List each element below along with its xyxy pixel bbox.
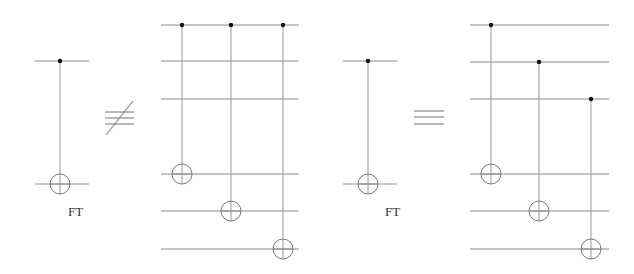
cnot-gate (481, 23, 501, 184)
equivalent-symbol (414, 111, 444, 124)
circuit-transversal-expansion-1 (161, 23, 299, 259)
cnot-gate (581, 97, 601, 259)
control-dot-icon (537, 60, 541, 64)
cnot-gate (221, 23, 241, 221)
control-dot-icon (366, 59, 370, 63)
circuit-transversal-expansion-2 (470, 23, 609, 259)
cnot-gate (273, 23, 293, 259)
cnot-gate (172, 23, 192, 184)
ft-label-right: FT (385, 204, 400, 220)
control-dot-icon (180, 23, 184, 27)
control-dot-icon (281, 23, 285, 27)
control-dot-icon (229, 23, 233, 27)
not-equivalent-symbol (105, 101, 134, 135)
control-dot-icon (589, 97, 593, 101)
cnot-gate (50, 59, 70, 194)
cnot-gate (358, 59, 378, 194)
circuit-diagram (0, 0, 634, 274)
circuit-ft-gate-right (343, 59, 397, 194)
control-dot-icon (489, 23, 493, 27)
control-dot-icon (58, 59, 62, 63)
ft-label-left: FT (68, 204, 83, 220)
circuit-ft-gate-left (35, 59, 89, 194)
cnot-gate (529, 60, 549, 221)
